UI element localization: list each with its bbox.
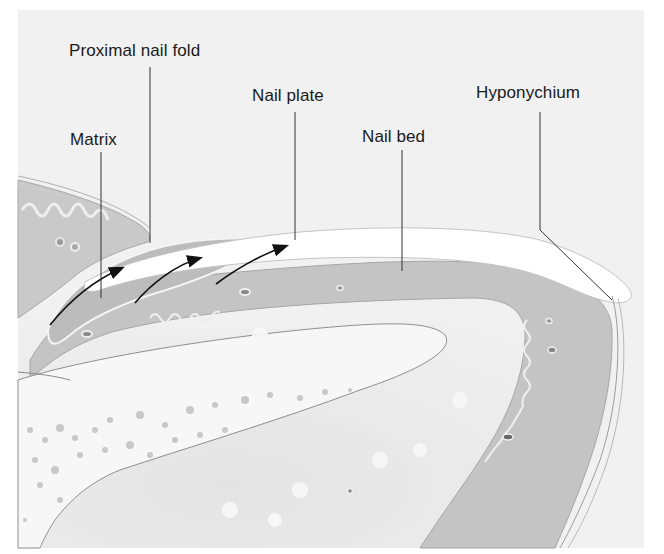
label-nail-bed: Nail bed: [362, 127, 425, 147]
label-hyponychium: Hyponychium: [476, 83, 580, 103]
label-proximal-nail-fold: Proximal nail fold: [69, 41, 200, 61]
label-matrix: Matrix: [70, 130, 117, 150]
nail-anatomy-diagram: Proximal nail fold Nail plate Matrix Nai…: [0, 0, 664, 554]
label-nail-plate: Nail plate: [252, 86, 324, 106]
